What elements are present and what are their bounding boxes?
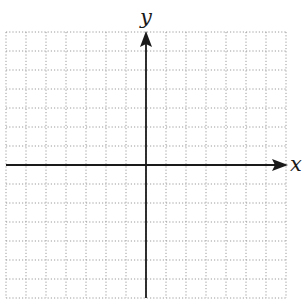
coordinate-plane: x y [0, 0, 305, 302]
y-axis-label: y [139, 5, 153, 29]
x-axis-label: x [290, 152, 302, 176]
